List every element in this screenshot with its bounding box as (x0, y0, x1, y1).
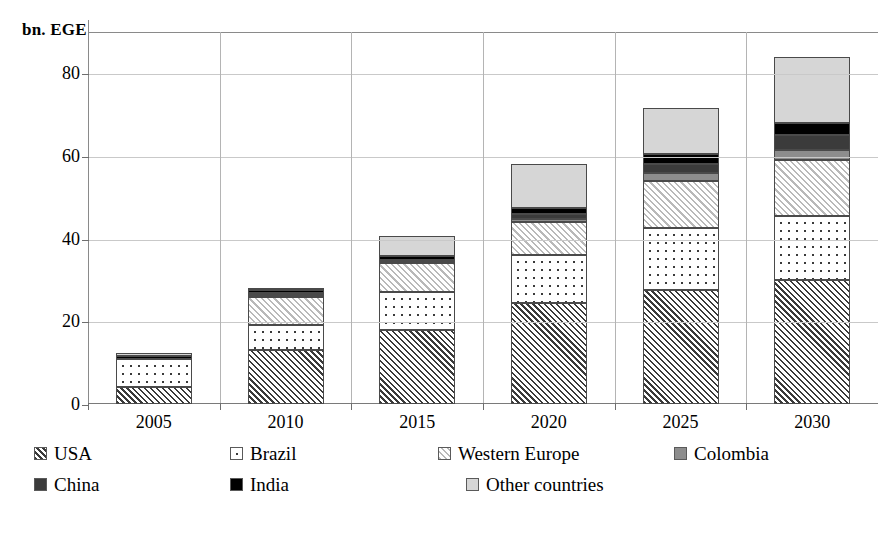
bar-segment-china[interactable] (379, 260, 455, 262)
legend-row: USABrazilWestern EuropeColombia (34, 444, 864, 475)
x-axis-tick (615, 403, 616, 410)
y-axis-tick-label: 20 (20, 312, 80, 330)
bar-segment-other-countries[interactable] (116, 353, 192, 356)
x-axis-tick (483, 403, 484, 410)
bar-2025[interactable] (643, 108, 719, 404)
legend-item-usa[interactable]: USA (34, 444, 92, 463)
x-axis-tick-label: 2030 (794, 412, 830, 433)
bar-segment-other-countries[interactable] (511, 164, 587, 207)
legend-label: Colombia (694, 444, 769, 463)
legend-swatch-icon (230, 478, 243, 491)
legend-label: China (54, 475, 99, 494)
bar-segment-western-europe[interactable] (248, 297, 324, 326)
bar-segment-other-countries[interactable] (774, 57, 850, 123)
legend-swatch-icon (466, 478, 479, 491)
legend-item-colombia[interactable]: Colombia (674, 444, 769, 463)
y-axis-tick-label: 0 (20, 395, 80, 413)
bar-segment-brazil[interactable] (379, 292, 455, 329)
x-axis-tick-labels: 200520102015202020252030 (88, 412, 878, 442)
legend-item-other-countries[interactable]: Other countries (466, 475, 604, 494)
x-axis-tick-label: 2005 (136, 412, 172, 433)
bar-segment-western-europe[interactable] (774, 160, 850, 216)
x-axis-tick-label: 2010 (268, 412, 304, 433)
legend-label: USA (54, 444, 92, 463)
legend-item-india[interactable]: India (230, 475, 289, 494)
legend-swatch-icon (674, 447, 687, 460)
bar-segment-india[interactable] (116, 356, 192, 358)
bar-2010[interactable] (248, 288, 324, 404)
bar-segment-brazil[interactable] (511, 255, 587, 303)
bar-segment-china[interactable] (774, 135, 850, 149)
bar-2015[interactable] (379, 236, 455, 404)
x-axis-tick-label: 2020 (531, 412, 567, 433)
legend-label: Western Europe (458, 444, 579, 463)
bar-segment-other-countries[interactable] (643, 108, 719, 153)
plot-area (88, 32, 878, 404)
bar-segment-china[interactable] (643, 164, 719, 172)
bar-segment-usa[interactable] (248, 350, 324, 404)
bar-segment-usa[interactable] (643, 290, 719, 404)
category-separator (483, 32, 484, 406)
bar-segment-brazil[interactable] (774, 216, 850, 280)
y-axis-tick (82, 74, 89, 75)
bar-segment-brazil[interactable] (248, 325, 324, 350)
y-axis-tick (82, 322, 89, 323)
x-axis-tick-label: 2025 (663, 412, 699, 433)
legend-label: Other countries (486, 475, 604, 494)
bar-segment-usa[interactable] (379, 330, 455, 404)
category-separator (351, 32, 352, 406)
bar-segment-china[interactable] (511, 214, 587, 219)
y-axis-tick (82, 240, 89, 241)
legend-swatch-icon (438, 447, 451, 460)
bar-segment-india[interactable] (248, 290, 324, 292)
x-axis-tick (88, 403, 89, 410)
category-separator (220, 32, 221, 406)
bar-segment-usa[interactable] (511, 303, 587, 404)
legend-swatch-icon (34, 447, 47, 460)
legend-swatch-icon (230, 447, 243, 460)
legend-swatch-icon (34, 478, 47, 491)
category-separator (615, 32, 616, 406)
category-separator (746, 32, 747, 406)
legend-label: Brazil (250, 444, 296, 463)
y-axis-tick-label: 80 (20, 64, 80, 82)
x-axis-tick (746, 403, 747, 410)
bar-segment-western-europe[interactable] (379, 263, 455, 292)
legend-item-brazil[interactable]: Brazil (230, 444, 296, 463)
bar-segment-usa[interactable] (774, 280, 850, 404)
bar-segment-india[interactable] (774, 123, 850, 135)
bar-segment-india[interactable] (379, 256, 455, 259)
bar-segment-brazil[interactable] (116, 359, 192, 387)
bar-segment-india[interactable] (643, 154, 719, 164)
bar-segment-india[interactable] (511, 208, 587, 214)
y-axis-tick-labels: 020406080 (8, 32, 80, 404)
bar-2005[interactable] (116, 353, 192, 404)
bar-2030[interactable] (774, 57, 850, 404)
chart-legend: USABrazilWestern EuropeColombiaChinaIndi… (34, 444, 864, 506)
legend-row: ChinaIndiaOther countries (34, 475, 864, 506)
bar-2020[interactable] (511, 164, 587, 404)
bar-segment-usa[interactable] (116, 387, 192, 404)
bar-segment-colombia[interactable] (774, 150, 850, 160)
bar-segment-colombia[interactable] (643, 173, 719, 181)
y-axis-tick-label: 40 (20, 230, 80, 248)
legend-label: India (250, 475, 289, 494)
legend-item-china[interactable]: China (34, 475, 99, 494)
y-axis-tick (82, 157, 89, 158)
legend-item-western-europe[interactable]: Western Europe (438, 444, 579, 463)
x-axis-tick (220, 403, 221, 410)
bar-segment-china[interactable] (248, 293, 324, 295)
bar-segment-brazil[interactable] (643, 228, 719, 290)
y-axis-tick-label: 60 (20, 147, 80, 165)
bar-segment-other-countries[interactable] (248, 288, 324, 290)
x-axis-tick (351, 403, 352, 410)
bar-segment-western-europe[interactable] (643, 181, 719, 229)
bar-segment-colombia[interactable] (511, 219, 587, 222)
stacked-bar-chart: bn. EGE 020406080 2005201020152020202520… (0, 0, 888, 534)
x-axis-tick-label: 2015 (399, 412, 435, 433)
